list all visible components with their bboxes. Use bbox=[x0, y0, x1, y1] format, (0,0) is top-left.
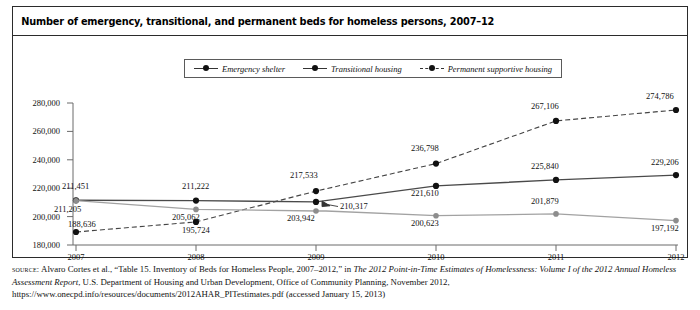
x-axis-tick-label: 2010 bbox=[412, 252, 460, 262]
x-axis-tick-label: 2008 bbox=[172, 252, 220, 262]
data-label-permanent-2008: 195,724 bbox=[182, 225, 210, 235]
source-lead-label: source: bbox=[12, 265, 39, 274]
chart-svg bbox=[0, 0, 700, 258]
y-axis-tick-label: 180,000 bbox=[12, 240, 60, 250]
data-label-transitional-2011: 201,879 bbox=[531, 196, 559, 206]
data-label-permanent-2007: 188,636 bbox=[68, 219, 96, 229]
data-label-emergency-2009: 210,317 bbox=[340, 201, 368, 211]
source-text-part2: , U.S. Department of Housing and Urban D… bbox=[12, 277, 450, 299]
data-label-permanent-2010: 236,798 bbox=[411, 143, 439, 153]
x-axis-ticks bbox=[76, 245, 676, 251]
data-label-emergency-2011: 225,840 bbox=[531, 161, 559, 171]
y-axis-tick-label: 240,000 bbox=[12, 155, 60, 165]
source-note: source: Alvaro Cortes et al., “Table 15.… bbox=[12, 263, 692, 301]
data-label-transitional-2010: 200,623 bbox=[411, 218, 439, 228]
figure-page: Number of emergency, transitional, and p… bbox=[0, 0, 700, 310]
data-label-permanent-2012: 274,786 bbox=[646, 91, 674, 101]
plot-area: 280,000 260,000 240,000 220,000 200,000 … bbox=[0, 0, 700, 258]
y-axis-tick-label: 200,000 bbox=[12, 212, 60, 222]
callout-leader-line bbox=[322, 201, 338, 207]
x-axis-tick-label: 2007 bbox=[52, 252, 100, 262]
data-label-transitional-2008: 205,062 bbox=[172, 212, 200, 222]
source-text-part1: Alvaro Cortes et al., “Table 15. Invento… bbox=[39, 264, 353, 274]
data-label-emergency-2008: 211,222 bbox=[182, 181, 209, 191]
series-line-emergency-shelter bbox=[76, 175, 676, 202]
y-axis-tick-label: 280,000 bbox=[12, 98, 60, 108]
series-markers-transitional-housing bbox=[73, 198, 679, 224]
x-axis-tick-label: 2011 bbox=[532, 252, 580, 262]
y-axis-tick-label: 260,000 bbox=[12, 126, 60, 136]
data-label-emergency-2012: 229,206 bbox=[651, 157, 679, 167]
y-axis-tick-label: 220,000 bbox=[12, 183, 60, 193]
data-label-emergency-2007: 211,451 bbox=[62, 181, 89, 191]
series-line-transitional-housing bbox=[76, 201, 676, 221]
data-label-transitional-2009: 203,942 bbox=[287, 213, 315, 223]
data-label-permanent-2011: 267,106 bbox=[531, 101, 559, 111]
x-axis-tick-label: 2012 bbox=[652, 252, 700, 262]
data-label-transitional-2007: 211,205 bbox=[54, 204, 81, 214]
data-label-emergency-2010: 221,610 bbox=[411, 188, 439, 198]
x-axis-tick-label: 2009 bbox=[292, 252, 340, 262]
data-label-transitional-2012: 197,192 bbox=[651, 223, 679, 233]
data-label-permanent-2009: 217,533 bbox=[290, 170, 318, 180]
